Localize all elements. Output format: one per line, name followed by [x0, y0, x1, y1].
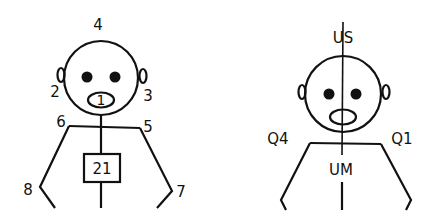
left-shoulder-line [69, 126, 140, 128]
left-arm-left [40, 126, 69, 208]
right-eye-left [324, 89, 335, 100]
label-us: US [333, 29, 354, 47]
right-arm-left [281, 143, 310, 210]
right-figure-labels: US Q4 Q1 UM [267, 29, 412, 179]
label-4: 4 [93, 16, 103, 34]
label-21: 21 [92, 160, 111, 178]
left-eye-left [82, 72, 93, 83]
label-5: 5 [143, 118, 153, 136]
left-ear-left [58, 68, 65, 82]
label-2: 2 [50, 83, 60, 101]
right-figure [281, 22, 411, 210]
right-eye-right [351, 89, 362, 100]
label-q1: Q1 [391, 130, 412, 148]
label-7: 7 [176, 183, 186, 201]
label-6: 6 [56, 113, 66, 131]
left-arm-right [140, 128, 172, 208]
label-1: 1 [97, 92, 106, 108]
right-ear-left [299, 85, 306, 99]
label-q4: Q4 [267, 130, 288, 148]
left-eye-right [110, 72, 121, 83]
left-ear-right [140, 69, 147, 83]
right-arm-right [381, 144, 411, 210]
label-8: 8 [23, 181, 33, 199]
label-um: UM [329, 161, 353, 179]
right-ear-right [383, 85, 390, 99]
label-3: 3 [143, 87, 153, 105]
diagram-canvas: 4 2 3 1 6 5 21 8 7 US Q4 Q1 UM [0, 0, 436, 224]
right-shoulder-line [310, 143, 381, 144]
